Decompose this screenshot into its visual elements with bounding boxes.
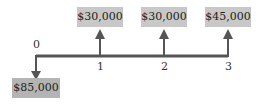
cash-outflow-0: $85,000 <box>12 78 60 98</box>
period-label-1: 1 <box>97 60 104 73</box>
period-label-2: 2 <box>161 60 168 73</box>
cash-inflow-1: $30,000 <box>77 7 123 27</box>
cash-inflow-2: $30,000 <box>141 7 187 27</box>
cash-inflow-3: $45,000 <box>205 7 251 27</box>
period-label-3: 3 <box>225 60 232 73</box>
period-label-0: 0 <box>33 38 40 51</box>
